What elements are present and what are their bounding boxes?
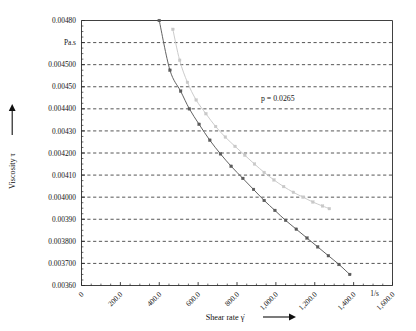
data-point-marker: [328, 207, 331, 210]
y-axis-title: Viscosity τ: [8, 152, 17, 188]
data-point-marker: [179, 90, 182, 93]
series-line-curve-dark: [159, 21, 349, 275]
data-point-marker: [195, 99, 198, 102]
data-point-marker: [205, 112, 208, 115]
data-point-marker: [306, 237, 309, 240]
y-tick-label: 0.003800: [48, 237, 76, 246]
data-point-marker: [316, 246, 319, 249]
y-tick-label: 0.00430: [52, 127, 76, 136]
series-line-curve-light: [173, 29, 329, 208]
data-point-marker: [172, 28, 175, 31]
data-point-marker: [253, 163, 256, 166]
data-point-marker: [169, 69, 172, 72]
data-point-marker: [219, 153, 222, 156]
data-point-marker: [178, 59, 181, 62]
y-tick-label: 0.00390: [52, 215, 76, 224]
y-tick-label: 0.003700: [48, 259, 76, 268]
data-point-marker: [241, 177, 244, 180]
y-axis-unit-label: Pa.s: [64, 38, 76, 47]
data-point-marker: [198, 123, 201, 126]
data-point-marker: [274, 209, 277, 212]
data-point-marker: [230, 165, 233, 168]
x-tick-label: 0: [76, 290, 85, 299]
data-point-marker: [302, 196, 305, 199]
y-tick-label: 0.004000: [48, 193, 76, 202]
data-point-marker: [292, 191, 295, 194]
chart-canvas: 0.00480Pa.s0.0045000.004500.0044000.0043…: [0, 0, 416, 331]
x-tick-label: 600.0: [184, 290, 202, 308]
data-point-marker: [263, 171, 266, 174]
y-tick-label: 0.00480: [52, 16, 76, 25]
y-tick-label: 0.00410: [52, 171, 76, 180]
data-point-marker: [282, 185, 285, 188]
y-tick-label: 0.004500: [48, 60, 76, 69]
x-tick-label: 200.0: [106, 290, 124, 308]
data-point-marker: [214, 125, 217, 128]
x-tick-label: 1,200.0: [297, 290, 319, 312]
viscosity-shear-rate-chart: 0.00480Pa.s0.0045000.004500.0044000.0043…: [0, 0, 416, 331]
data-point-marker: [273, 179, 276, 182]
data-point-marker: [234, 145, 237, 148]
x-tick-label: 400.0: [145, 290, 163, 308]
x-axis-title: Shear rate γ̇: [206, 313, 246, 322]
data-point-marker: [321, 205, 324, 208]
y-tick-label: 0.004400: [48, 104, 76, 113]
data-point-marker: [188, 107, 191, 110]
data-point-marker: [263, 199, 266, 202]
data-point-marker: [338, 263, 341, 266]
y-tick-label: 0.004200: [48, 149, 76, 158]
y-axis-title-arrowhead: [9, 104, 16, 111]
y-tick-label: 0.00360: [52, 281, 76, 290]
data-point-marker: [243, 154, 246, 157]
chart-annotation: p = 0.0265: [261, 94, 295, 103]
data-point-marker: [348, 273, 351, 276]
x-tick-label: 800.0: [223, 290, 241, 308]
x-axis-unit-label: 1/s: [370, 289, 379, 298]
data-point-marker: [295, 228, 298, 231]
x-tick-label: 1,000.0: [258, 290, 280, 312]
data-point-marker: [158, 19, 161, 22]
data-point-marker: [252, 188, 255, 191]
y-tick-label: 0.00450: [52, 82, 76, 91]
data-point-marker: [284, 219, 287, 222]
data-point-marker: [208, 139, 211, 142]
data-point-marker: [224, 136, 227, 139]
data-point-marker: [186, 81, 189, 84]
x-axis-title-arrowhead: [289, 314, 296, 321]
data-point-marker: [311, 201, 314, 204]
data-point-marker: [327, 254, 330, 257]
x-tick-label: 1,400.0: [336, 290, 358, 312]
